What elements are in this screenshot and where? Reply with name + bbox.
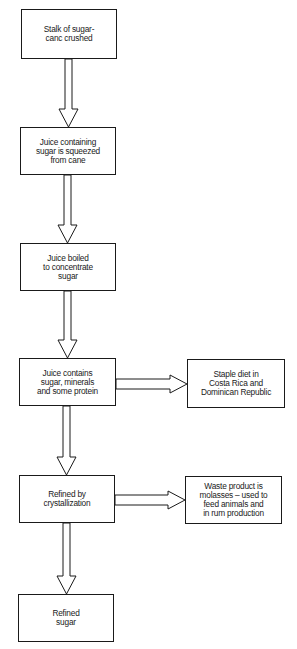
step-juice-contents: Juice contains sugar, minerals and some … <box>19 358 116 406</box>
output-label: Staple diet in Costa Rica and Dominican … <box>201 370 271 397</box>
step-label: Juice boiled to concentrate sugar <box>43 254 93 281</box>
arrow-down-icon <box>58 175 77 243</box>
step-label: Refined sugar <box>52 609 79 627</box>
arrow-right-icon <box>116 375 187 393</box>
arrow-down-icon <box>59 59 78 127</box>
arrow-down-icon <box>57 406 76 475</box>
output-label: Waste product is molasses – used to feed… <box>200 482 268 518</box>
flow-arrows <box>0 0 297 649</box>
step-label: Juice contains sugar, minerals and some … <box>37 369 98 396</box>
step-refined-sugar: Refined sugar <box>18 594 114 642</box>
step-refine-crystallization: Refined by crystallization <box>19 475 115 523</box>
arrow-down-icon <box>57 523 76 594</box>
step-crush-stalk: Stalk of sugar- canc crushed <box>21 9 117 59</box>
output-staple-diet: Staple diet in Costa Rica and Dominican … <box>187 359 285 408</box>
step-boil-juice: Juice boiled to concentrate sugar <box>20 243 116 291</box>
output-molasses: Waste product is molasses – used to feed… <box>185 476 282 524</box>
arrow-down-icon <box>58 291 77 358</box>
step-label: Stalk of sugar- canc crushed <box>44 25 95 43</box>
step-squeeze-juice: Juice containing sugar is squeezed from … <box>20 127 116 175</box>
step-label: Juice containing sugar is squeezed from … <box>36 138 100 165</box>
arrow-right-icon <box>115 491 185 509</box>
step-label: Refined by crystallization <box>44 490 91 508</box>
